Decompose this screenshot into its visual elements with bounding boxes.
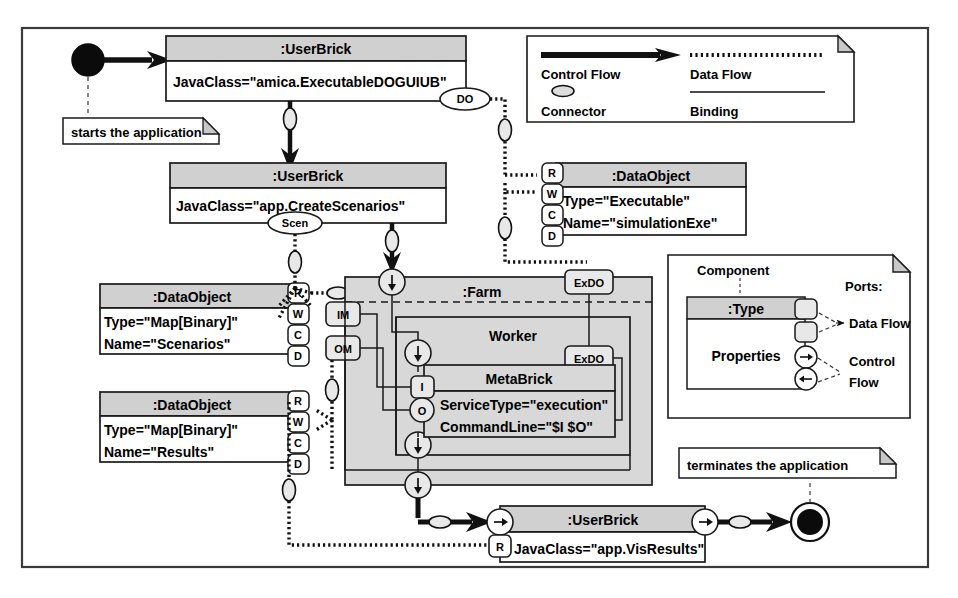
final-node[interactable] xyxy=(791,503,829,541)
dataobject-simulationexe-prop-1: Name="simulationExe" xyxy=(563,215,718,231)
port-controlout-visresults[interactable] xyxy=(692,509,718,535)
legend-ports-label: Ports: xyxy=(845,279,883,294)
port-w-scenarios-label: W xyxy=(293,308,304,320)
port-c-scenarios-label: C xyxy=(294,329,302,341)
legend-port-dataflow-label: Data Flow xyxy=(849,316,911,331)
port-exdo-farm-label: ExDO xyxy=(574,277,604,289)
dataobject-results-prop-1: Name="Results" xyxy=(104,444,214,460)
legend-port-controlflow-label-1: Control xyxy=(849,354,895,369)
port-controlin-visresults[interactable] xyxy=(487,509,513,535)
port-exdo-worker-label: ExDO xyxy=(574,353,604,365)
legend-connector-label: Connector xyxy=(541,104,606,119)
dataobject-simulationexe-type: :DataObject xyxy=(612,168,691,184)
initial-node[interactable] xyxy=(72,44,104,76)
connector-results-dataflow xyxy=(283,479,296,501)
connector-exdo-dataflow xyxy=(499,217,512,239)
userbrick-visresults-prop-0: JavaClass="app.VisResults" xyxy=(514,541,704,557)
dataobject-scenarios-prop-1: Name="Scenarios" xyxy=(104,336,231,352)
port-d-simulationexe-label: D xyxy=(548,230,556,242)
userbrick-createscenarios-prop-0: JavaClass="app.CreateScenarios" xyxy=(176,198,405,214)
metabrick-prop-0: ServiceType="execution" xyxy=(440,397,608,413)
port-r-results-label: R xyxy=(294,395,302,407)
port-w-results-label: W xyxy=(293,416,304,428)
connector-do-dataflow xyxy=(499,119,512,141)
legend-type-label: :Type xyxy=(728,301,765,317)
dataobject-results-type: :DataObject xyxy=(153,397,232,413)
port-d-results-label: D xyxy=(294,458,302,470)
port-controlout-farm[interactable] xyxy=(405,472,431,498)
port-om-label: OM xyxy=(334,343,352,355)
port-controlin-worker[interactable] xyxy=(405,340,431,366)
legend-port-dataflow-1 xyxy=(795,299,817,319)
port-im-label: IM xyxy=(337,309,349,321)
legend-port-dataflow-2 xyxy=(795,322,817,342)
worker-type: Worker xyxy=(489,328,538,344)
legend-properties-label: Properties xyxy=(711,348,780,364)
dataobject-simulationexe-prop-0: Type="Executable" xyxy=(563,193,690,209)
dataobject-scenarios-prop-0: Type="Map[Binary]" xyxy=(104,314,238,330)
port-d-scenarios-label: D xyxy=(294,350,302,362)
note-end-text: terminates the application xyxy=(687,458,848,473)
legend-connector-glyph xyxy=(552,86,574,97)
metabrick-type: MetaBrick xyxy=(486,371,553,387)
port-scen-label: Scen xyxy=(282,217,309,229)
port-w-simulationexe-label: W xyxy=(547,188,558,200)
userbrick-visresults-type: :UserBrick xyxy=(568,512,639,528)
metabrick-prop-1: CommandLine="$I $O" xyxy=(440,419,593,435)
port-do-label: DO xyxy=(457,93,474,105)
port-c-simulationexe-label: C xyxy=(548,209,556,221)
connector-scen-dataflow xyxy=(289,251,302,273)
connector-om-dataflow xyxy=(326,379,339,401)
farm-type: :Farm xyxy=(463,284,502,300)
userbrick-executable-prop-0: JavaClass="amica.ExecutableDOGUIUB" xyxy=(173,74,447,90)
legend-binding-label: Binding xyxy=(690,104,738,119)
userbrick-executable-type: :UserBrick xyxy=(281,41,352,57)
port-c-results-label: C xyxy=(294,437,302,449)
port-i-label: I xyxy=(420,381,423,393)
userbrick-createscenarios-type: :UserBrick xyxy=(273,168,344,184)
note-start-text: starts the application xyxy=(71,125,202,140)
port-r-simulationexe-label: R xyxy=(548,167,556,179)
legend-port-controlflow-1 xyxy=(795,346,817,368)
legend-port-controlflow-label-2: Flow xyxy=(849,375,879,390)
diagram-canvas: Control Flow Data Flow Connector Binding… xyxy=(0,0,958,598)
port-controlin-farm[interactable] xyxy=(379,269,405,295)
legend-component-label: Component xyxy=(697,263,770,278)
port-r-visresults-label: R xyxy=(496,541,504,553)
legend-data-flow-label: Data Flow xyxy=(690,67,752,82)
dataobject-results-prop-0: Type="Map[Binary]" xyxy=(104,422,238,438)
port-o-label: O xyxy=(418,405,427,417)
dataobject-scenarios-type: :DataObject xyxy=(153,289,232,305)
port-r-scenarios-label: R xyxy=(294,287,302,299)
legend-port-controlflow-2 xyxy=(795,368,817,390)
legend-control-flow-label: Control Flow xyxy=(541,67,621,82)
diagram-svg: Control Flow Data Flow Connector Binding… xyxy=(0,0,958,598)
